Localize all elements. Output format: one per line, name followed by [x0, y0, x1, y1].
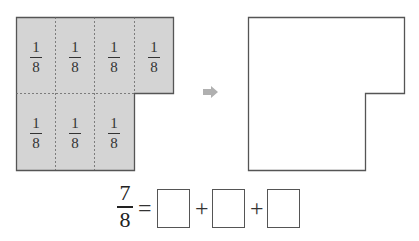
fraction-label: 18	[30, 116, 42, 151]
equals-sign: =	[138, 196, 152, 220]
fraction-label: 18	[69, 40, 81, 75]
plus-sign: +	[195, 196, 209, 220]
fraction-label: 18	[108, 116, 120, 151]
answer-box-3[interactable]	[267, 189, 300, 228]
fraction-label: 18	[30, 40, 42, 75]
answer-box-1[interactable]	[157, 189, 190, 228]
fraction-label: 18	[108, 40, 120, 75]
figure-outlines	[0, 0, 419, 241]
fraction-label: 18	[148, 40, 160, 75]
plus-sign: +	[250, 196, 264, 220]
fraction-label: 18	[69, 116, 81, 151]
right-arrow-icon	[203, 86, 218, 98]
answer-box-2[interactable]	[212, 189, 245, 228]
equation-fraction: 78	[117, 183, 133, 230]
